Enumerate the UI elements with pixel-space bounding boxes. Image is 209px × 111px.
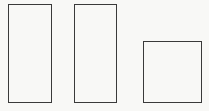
tall-rectangle-1 (8, 4, 52, 103)
short-rectangle (143, 41, 202, 103)
tall-rectangle-2 (74, 4, 117, 103)
